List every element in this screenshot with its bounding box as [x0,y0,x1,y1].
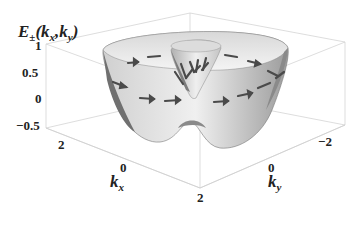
ky-axis-title: ky [268,172,281,193]
z-tick-0-5: 0.5 [22,65,38,81]
kx-axis-title: kx [110,172,124,193]
plot-box-front [46,125,345,188]
z-tick-0: 0 [35,91,42,107]
kx-tick-2-front: 2 [197,190,204,206]
z-tick-1: 1 [35,38,42,54]
z-axis-title: E±(kx,ky) [18,22,78,43]
kx-tick-2: 2 [58,137,65,153]
ky-tick-neg-2: −2 [318,134,332,150]
z-tick-neg-0-5: −0.5 [16,118,40,134]
